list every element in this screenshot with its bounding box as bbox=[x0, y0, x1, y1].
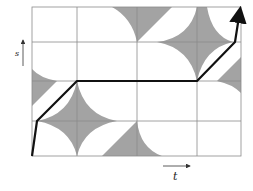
t-axis-label: t bbox=[173, 170, 178, 183]
obstacle-star-upper-right bbox=[157, 7, 233, 81]
s-axis-label: s bbox=[15, 49, 19, 58]
diagram-canvas: s t bbox=[0, 0, 253, 191]
obstacle-left-wedge bbox=[32, 69, 57, 106]
obstacle-right-wedge bbox=[217, 57, 241, 93]
obstacle-bottom-center bbox=[102, 121, 162, 156]
obstacle-top-center bbox=[112, 7, 172, 42]
